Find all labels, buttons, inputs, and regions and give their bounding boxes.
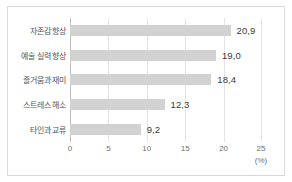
plot-area: 20,9 19,0 18,4 12,3 9,2 [70,18,262,142]
x-tick-label: 15 [181,144,190,153]
bar-value-label: 20,9 [237,25,256,36]
category-axis: 자존감 향상 예술 실력 향상 즐거움과 재미 스트레스 해소 타인과 교류 [8,18,66,142]
x-tick-label: 25 [257,144,266,153]
unit-label: (%) [255,156,267,165]
x-axis: 0 5 10 15 20 25 [70,142,262,156]
bar-chart-card: 자존감 향상 예술 실력 향상 즐거움과 재미 스트레스 해소 타인과 교류 2… [0,0,292,182]
category-label: 자존감 향상 [30,18,66,43]
x-tick-label: 10 [142,144,151,153]
bar-row: 18,4 [70,68,262,93]
bar-value-label: 18,4 [217,74,236,85]
bar-row: 19,0 [70,43,262,68]
bar [70,50,216,61]
category-label: 예술 실력 향상 [21,43,66,68]
bar [70,25,231,36]
bar-value-label: 12,3 [171,99,190,110]
category-label: 타인과 교류 [30,117,66,142]
x-tick-label: 0 [68,144,72,153]
category-label: 스트레스 해소 [23,92,66,117]
bar-series: 20,9 19,0 18,4 12,3 9,2 [70,18,262,142]
category-label: 즐거움과 재미 [23,68,66,93]
bar-row: 12,3 [70,92,262,117]
bar [70,74,211,85]
bar-value-label: 19,0 [222,50,241,61]
bar-row: 9,2 [70,117,262,142]
bar-row: 20,9 [70,18,262,43]
x-tick-label: 5 [106,144,110,153]
bar [70,99,165,110]
bar-value-label: 9,2 [147,124,161,135]
bar [70,124,141,135]
x-tick-label: 20 [219,144,228,153]
